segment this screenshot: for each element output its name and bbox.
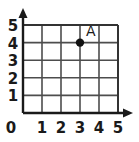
x-tick-label-2: 2 bbox=[56, 119, 66, 137]
x-axis bbox=[23, 109, 133, 118]
coordinate-grid-figure: 5 4 3 2 1 0 1 2 3 4 5 A bbox=[0, 0, 139, 142]
x-tick-label-3: 3 bbox=[75, 119, 85, 137]
y-tick-label-3: 3 bbox=[8, 52, 18, 70]
y-tick-label-4: 4 bbox=[8, 35, 18, 53]
grid-border bbox=[23, 25, 118, 113]
y-tick-label-2: 2 bbox=[8, 70, 18, 88]
data-point-a-label: A bbox=[86, 23, 96, 39]
data-point-a bbox=[76, 38, 84, 46]
x-tick-label-5: 5 bbox=[113, 119, 123, 137]
coordinate-plane-svg: 5 4 3 2 1 0 1 2 3 4 5 A bbox=[0, 0, 139, 142]
y-tick-label-5: 5 bbox=[8, 17, 18, 35]
origin-label-0: 0 bbox=[6, 119, 16, 137]
x-axis-arrowhead-icon bbox=[123, 109, 133, 118]
y-tick-label-1: 1 bbox=[8, 87, 18, 105]
x-tick-label-4: 4 bbox=[94, 119, 104, 137]
grid-lines-horizontal bbox=[23, 43, 118, 96]
x-tick-label-1: 1 bbox=[37, 119, 47, 137]
y-axis-arrowhead-icon bbox=[19, 8, 28, 18]
